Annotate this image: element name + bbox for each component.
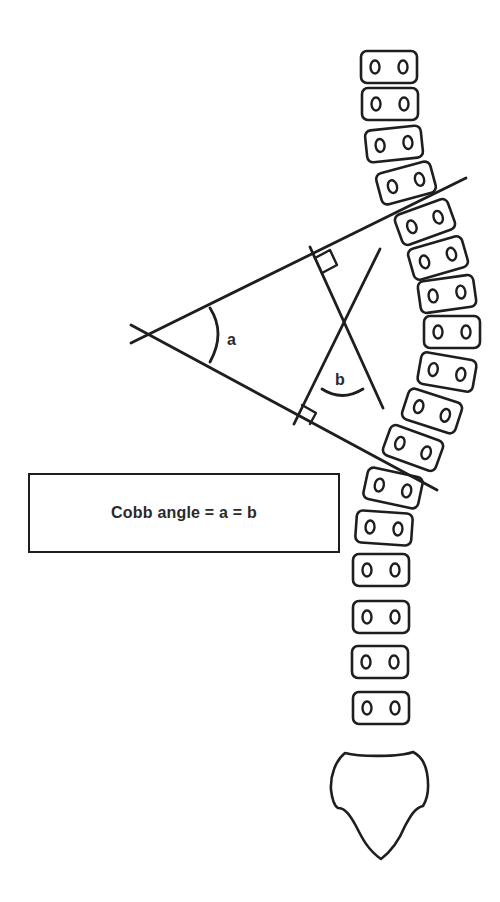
cobb-angle-formula-box: Cobb angle = a = b <box>28 473 340 553</box>
vertebra-body <box>364 125 423 163</box>
pedicle-oval <box>391 564 400 577</box>
pedicle-oval <box>363 611 372 624</box>
perpendicular-line-upper <box>310 247 383 408</box>
pedicle-oval <box>375 139 385 153</box>
angle-label-a: a <box>227 331 236 348</box>
pedicle-oval <box>391 702 400 715</box>
vertebra-body <box>400 387 463 435</box>
pedicle-oval <box>362 656 371 669</box>
angle-arc-b <box>322 389 363 396</box>
vertebra <box>424 316 480 348</box>
spine-column <box>352 51 480 724</box>
pedicle-oval <box>390 656 399 669</box>
vertebra-body <box>375 160 437 205</box>
vertebra <box>417 274 477 313</box>
pedicle-oval <box>391 611 400 624</box>
pedicle-oval <box>399 61 408 74</box>
cobb-angle-diagram: a b <box>0 0 500 902</box>
pedicle-oval <box>363 564 372 577</box>
pedicle-oval <box>393 522 403 536</box>
vertebra <box>417 351 478 392</box>
cobb-angle-formula: Cobb angle = a = b <box>111 504 257 522</box>
pedicle-oval <box>462 326 471 339</box>
lower-endplate-line <box>131 325 437 490</box>
pedicle-oval <box>400 98 409 111</box>
pedicle-oval <box>455 367 466 381</box>
vertebra <box>361 51 417 83</box>
pedicle-oval <box>363 702 372 715</box>
pedicle-oval <box>456 285 467 299</box>
pedicle-oval <box>371 61 380 74</box>
vertebra <box>364 125 423 163</box>
angle-arc-a <box>210 308 218 362</box>
pedicle-oval <box>434 326 443 339</box>
pedicle-oval <box>365 520 375 534</box>
pedicle-oval <box>428 362 439 376</box>
pedicle-oval <box>403 136 413 150</box>
vertebra <box>400 387 463 435</box>
vertebra <box>352 646 408 678</box>
vertebra <box>353 601 409 633</box>
vertebra-body <box>362 467 423 510</box>
vertebra-body <box>355 510 413 546</box>
pedicle-oval <box>372 98 381 111</box>
vertebra <box>353 692 409 724</box>
vertebra <box>362 88 418 120</box>
angle-label-b: b <box>335 371 345 388</box>
vertebra-body <box>417 274 477 313</box>
pedicle-oval <box>428 289 439 303</box>
vertebra <box>362 467 423 510</box>
sacrum-shape <box>331 752 428 859</box>
perpendicular-line-lower <box>294 249 380 424</box>
vertebra <box>355 510 413 546</box>
vertebra <box>375 160 437 205</box>
right-angle-marker-upper <box>315 250 337 273</box>
vertebra <box>353 554 409 586</box>
vertebra-body <box>417 351 478 392</box>
